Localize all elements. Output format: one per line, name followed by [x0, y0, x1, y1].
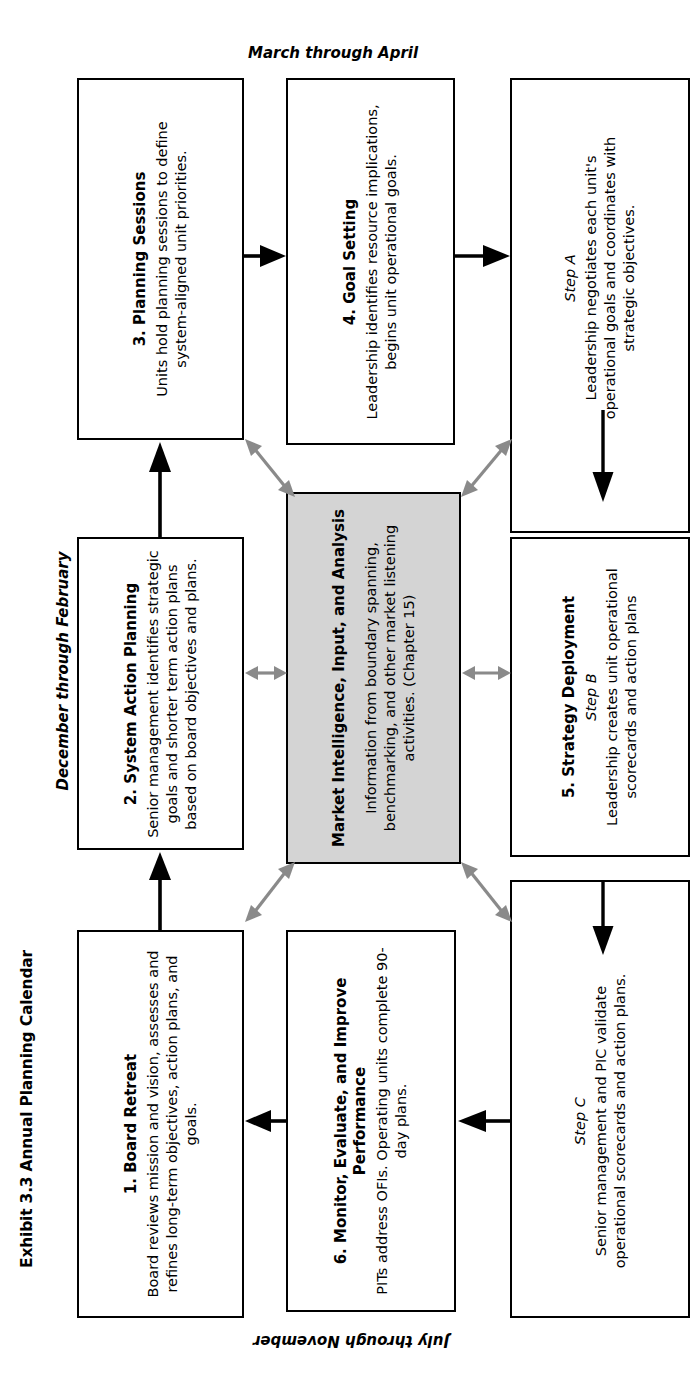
box-system-action-planning-body: Senior management identifies strategic g…	[143, 548, 200, 840]
arrow-step-a-to-strategy-deployment	[590, 410, 616, 505]
box-step-c-step: Step C	[571, 971, 590, 1271]
box-strategy-deployment-body: Leadership creates unit operational scor…	[603, 547, 641, 847]
box-planning-sessions[interactable]: 3. Planning Sessions Units hold planning…	[77, 78, 244, 440]
period-label-march-april: March through April	[248, 44, 418, 62]
box-system-action-planning[interactable]: 2. System Action Planning Senior managem…	[77, 537, 244, 850]
box-step-c-body: Senior management and PIC validate opera…	[592, 971, 630, 1271]
box-goal-setting-heading: 4. Goal Setting	[341, 94, 360, 429]
gray-arrow-board-retreat-to-market	[240, 858, 300, 924]
box-step-a-step: Step A	[561, 113, 580, 443]
arrow-goal-setting-to-step-a	[455, 243, 512, 269]
arrow-monitor-evaluate-to-board-retreat	[243, 1108, 288, 1134]
period-label-december-february: December through February	[52, 546, 74, 796]
box-board-retreat-heading: 1. Board Retreat	[121, 949, 140, 1299]
box-planning-sessions-body: Units hold planning sessions to define s…	[153, 94, 191, 424]
box-goal-setting[interactable]: 4. Goal Setting Leadership identifies re…	[286, 78, 455, 445]
arrow-system-action-planning-to-planning-sessions	[147, 440, 173, 538]
arrow-board-retreat-to-system-action-planning	[147, 850, 173, 932]
box-monitor-evaluate-body: PITs address OFIs. Operating units compl…	[373, 946, 411, 1296]
exhibit-diagram: Exhibit 3.3 Annual Planning Calendar Mar…	[0, 0, 695, 1397]
arrow-planning-sessions-to-goal-setting	[244, 243, 288, 269]
gray-arrow-market-to-strategy-deployment	[461, 662, 512, 684]
box-step-c[interactable]: Step C Senior management and PIC validat…	[510, 880, 690, 1318]
period-label-july-november: July through November	[253, 1332, 449, 1350]
box-strategy-deployment-step: Step B	[582, 547, 601, 847]
box-system-action-planning-heading: 2. System Action Planning	[121, 548, 140, 840]
box-market-intelligence-body: Information from boundary spanning, benc…	[361, 503, 418, 853]
box-strategy-deployment[interactable]: 5. Strategy Deployment Step B Leadership…	[510, 537, 690, 857]
box-goal-setting-body: Leadership identifies resource implicati…	[363, 94, 401, 429]
box-step-a-body: Leadership negotiates each unit's operat…	[582, 113, 639, 443]
gray-arrow-market-to-monitor-evaluate	[455, 858, 517, 924]
spacer	[351, 503, 361, 853]
box-market-intelligence[interactable]: Market Intelligence, Input, and Analysis…	[286, 492, 461, 864]
box-market-intelligence-heading: Market Intelligence, Input, and Analysis	[329, 503, 348, 853]
arrow-strategy-deployment-to-step-c	[590, 880, 616, 958]
box-monitor-evaluate[interactable]: 6. Monitor, Evaluate, and Improve Perfor…	[286, 930, 456, 1312]
arrow-step-c-to-monitor-evaluate	[456, 1108, 512, 1134]
box-planning-sessions-heading: 3. Planning Sessions	[131, 94, 150, 424]
box-strategy-deployment-heading: 5. Strategy Deployment	[560, 547, 579, 847]
gray-arrow-market-to-goal-setting	[455, 437, 517, 499]
box-monitor-evaluate-heading: 6. Monitor, Evaluate, and Improve Perfor…	[332, 946, 370, 1296]
gray-arrow-system-action-planning-to-market	[244, 662, 288, 684]
box-board-retreat-body: Board reviews mission and vision, assess…	[143, 949, 200, 1299]
box-board-retreat[interactable]: 1. Board Retreat Board reviews mission a…	[77, 930, 244, 1318]
box-step-a[interactable]: Step A Leadership negotiates each unit's…	[510, 78, 690, 533]
page-title: Exhibit 3.3 Annual Planning Calendar	[14, 978, 40, 1268]
gray-arrow-market-to-planning-sessions	[240, 437, 300, 499]
